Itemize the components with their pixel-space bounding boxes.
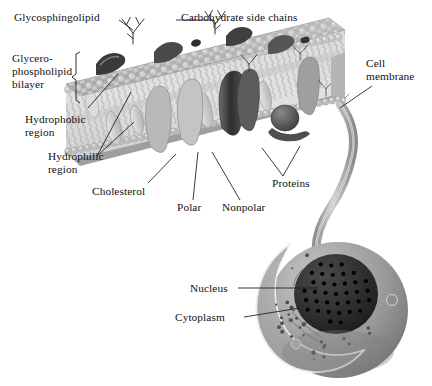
label-cell-membrane-line1: Cell xyxy=(366,57,385,70)
nucleus-body xyxy=(294,254,378,334)
diagram-canvas: Glycosphingolipid Carbohydrate side chai… xyxy=(0,0,432,386)
label-proteins: Proteins xyxy=(272,177,310,190)
leader-proteins-a xyxy=(262,148,283,176)
label-glycosphingolipid: Glycosphingolipid xyxy=(14,11,100,24)
leader-polar xyxy=(193,152,198,200)
label-cholesterol: Cholesterol xyxy=(92,185,145,198)
label-bilayer-line3: bilayer xyxy=(12,78,44,91)
leader-glycosphingolipid xyxy=(119,20,133,30)
label-hydrophilic-line1: Hydrophilic xyxy=(48,150,104,163)
leader-cholesterol xyxy=(148,154,176,183)
membrane-slab xyxy=(11,0,379,175)
label-hydrophobic-line2: region xyxy=(25,126,54,139)
label-nonpolar: Nonpolar xyxy=(222,201,265,214)
label-carbohydrate-side-chains: Carbohydrate side chains xyxy=(181,11,298,24)
label-cytoplasm: Cytoplasm xyxy=(175,311,225,324)
leader-proteins-b xyxy=(283,146,300,176)
label-polar: Polar xyxy=(177,201,201,214)
label-bilayer-line1: Glycero- xyxy=(12,52,53,65)
label-hydrophilic-line2: region xyxy=(48,163,77,176)
label-bilayer-line2: phospholipid xyxy=(12,65,72,78)
cell-body xyxy=(256,238,408,378)
label-hydrophobic-line1: Hydrophobic xyxy=(25,113,86,126)
label-nucleus: Nucleus xyxy=(190,282,228,295)
leader-nonpolar xyxy=(212,152,240,200)
connector-ribbon xyxy=(316,104,354,250)
label-cell-membrane-line2: membrane xyxy=(366,70,414,83)
